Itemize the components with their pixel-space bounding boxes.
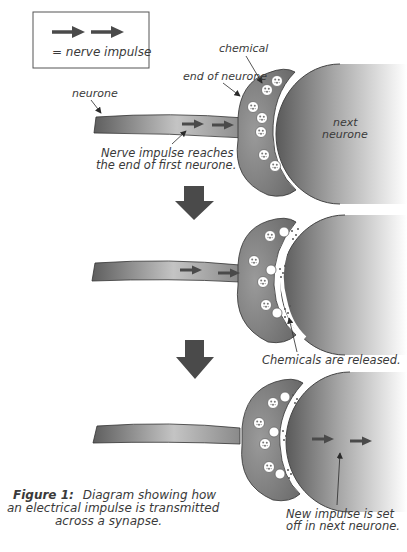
vesicle <box>262 85 273 96</box>
synapse-diagram: = nerve impulse chemical end of neurone … <box>0 0 407 552</box>
figure-caption-line-3: across a synapse. <box>55 514 162 528</box>
figure-caption: Figure 1: Diagram showing how an electri… <box>7 488 220 528</box>
label-chemical: chemical <box>219 42 268 55</box>
label-neurone: neurone <box>72 87 118 100</box>
svg-text:Figure 1: Diagram showin: Figure 1: Diagram showing how <box>13 488 216 502</box>
caption-stage-1-line-2: the end of first neurone. <box>96 158 236 172</box>
caption-stage-3-line-2: off in next neurone. <box>286 519 400 533</box>
down-arrow-icon <box>175 186 214 220</box>
legend-box: = nerve impulse <box>33 12 151 68</box>
label-next-neurone: neurone <box>322 128 368 141</box>
stage-2: Chemicals are released. <box>92 215 407 367</box>
legend-label: = nerve impulse <box>52 45 151 59</box>
caption-stage-2: Chemicals are released. <box>262 353 401 367</box>
figure-caption-line-2: an electrical impulse is transmitted <box>7 501 220 515</box>
figure-number: Figure 1: <box>13 488 74 502</box>
figure-caption-line-1: Diagram showing how <box>83 488 217 502</box>
down-arrow-icon <box>176 340 214 379</box>
label-end-of-neurone: end of neurone <box>183 70 267 83</box>
